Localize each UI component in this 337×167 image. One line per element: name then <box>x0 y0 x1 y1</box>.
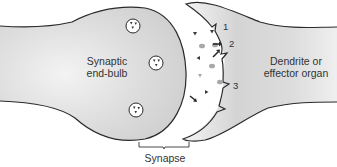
synapse-bracket <box>139 142 189 149</box>
label-synaptic-end-bulb: Synaptic end-bulb <box>72 55 142 79</box>
label-synapse: Synapse <box>136 152 194 164</box>
synapse-diagram: Synaptic end-bulb Dendrite or effector o… <box>0 0 337 167</box>
synaptic-vesicle <box>126 19 140 33</box>
marker-1: 1 <box>223 21 228 33</box>
marker-2: 2 <box>229 38 234 50</box>
synaptic-vesicle <box>129 103 143 117</box>
label-dendrite-effector-organ: Dendrite or effector organ <box>255 55 337 79</box>
synaptic-vesicle <box>149 56 163 70</box>
marker-3: 3 <box>233 80 238 92</box>
diagram-canvas <box>0 0 337 167</box>
neurotransmitter-molecules <box>193 30 223 94</box>
